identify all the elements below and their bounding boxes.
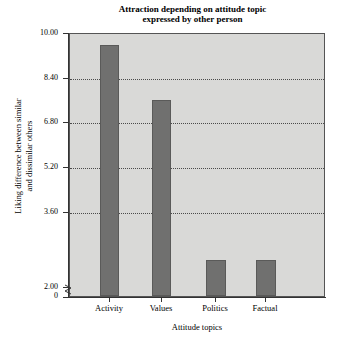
y-tick-label-2-00: 2.00 bbox=[18, 283, 58, 291]
x-tick-mark-activity bbox=[109, 297, 110, 302]
bar-politics[interactable] bbox=[206, 260, 226, 296]
bar-values[interactable] bbox=[152, 100, 171, 296]
axis-break-icon bbox=[64, 283, 73, 297]
y-tick-mark-5-20 bbox=[63, 167, 69, 168]
chart-figure: Attraction depending on attitude topic e… bbox=[0, 0, 339, 349]
y-axis-title-line-1: Liking difference between similar bbox=[13, 61, 24, 251]
chart-title: Attraction depending on attitude topic e… bbox=[60, 4, 325, 24]
y-axis-title: Liking difference between similar and di… bbox=[13, 61, 35, 251]
bar-activity[interactable] bbox=[100, 45, 119, 296]
y-tick-label-10-00: 10.00 bbox=[18, 29, 58, 37]
x-tick-mark-values bbox=[161, 297, 162, 302]
y-tick-mark-6-80 bbox=[63, 122, 69, 123]
bar-factual[interactable] bbox=[256, 260, 276, 296]
y-tick-mark-8-40 bbox=[63, 78, 69, 79]
x-axis-line bbox=[68, 297, 326, 298]
y-axis-line bbox=[68, 33, 69, 297]
y-axis-title-line-2: and dissimilar others bbox=[24, 61, 35, 251]
chart-title-line-2: expressed by other person bbox=[60, 14, 325, 24]
x-tick-mark-factual bbox=[265, 297, 266, 302]
x-tick-label-factual: Factual bbox=[230, 303, 300, 313]
y-tick-mark-3-60 bbox=[63, 212, 69, 213]
x-axis-title: Attitude topics bbox=[69, 322, 325, 332]
y-tick-label-0: 0 bbox=[18, 292, 58, 300]
plot-area bbox=[69, 33, 325, 297]
x-tick-mark-politics bbox=[215, 297, 216, 302]
chart-title-line-1: Attraction depending on attitude topic bbox=[60, 4, 325, 14]
y-tick-mark-10-00 bbox=[63, 33, 69, 34]
